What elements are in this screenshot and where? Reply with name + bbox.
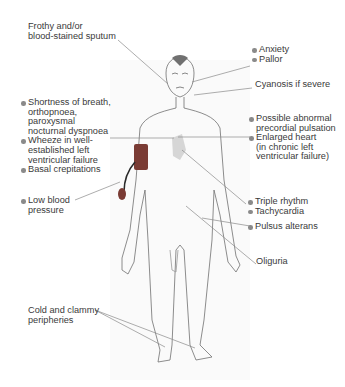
label-breath: Shortness of breath,orthopnoea,paroxysma… (21, 98, 111, 175)
label-cyanosis: Cyanosis if severe (255, 80, 330, 90)
label-bp: Low bloodpressure (21, 196, 70, 215)
label-anxiety-pallor: AnxietyPallor (252, 45, 289, 64)
bp-cuff (134, 144, 148, 170)
label-pulsation-heart: Possible abnormalprecordial pulsationEnl… (249, 114, 336, 162)
label-triple-tachy: Triple rhythmTachycardia (248, 197, 308, 216)
label-pulsus: Pulsus alterans (248, 222, 318, 232)
bp-bulb (118, 188, 126, 200)
body-figure (0, 0, 345, 387)
label-sputum: Frothy and/orblood-stained sputum (28, 22, 116, 41)
label-oliguria: Oliguria (256, 257, 288, 267)
label-cold: Cold and clammyperipheries (28, 306, 99, 325)
